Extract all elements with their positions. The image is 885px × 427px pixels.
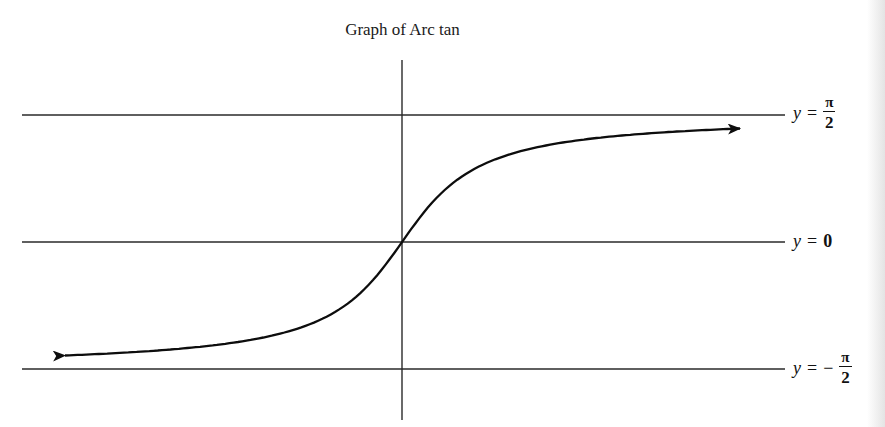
fraction-pi-over-2: π 2 (823, 95, 835, 131)
label-var: y (793, 231, 801, 252)
arctan-plot (0, 0, 885, 427)
label-equals: = (807, 231, 817, 252)
label-y-zero: y = 0 (793, 231, 832, 252)
label-y-neg-pi-over-2: y = − π 2 (793, 350, 852, 386)
fraction-numerator: π (839, 350, 851, 367)
label-var: y (793, 103, 801, 124)
label-y-pi-over-2: y = π 2 (793, 95, 835, 131)
fraction-pi-over-2: π 2 (839, 350, 851, 386)
label-value: 0 (823, 231, 832, 252)
fraction-numerator: π (823, 95, 835, 112)
label-var: y (793, 358, 801, 379)
label-equals: = (807, 358, 817, 379)
label-minus-sign: − (823, 358, 833, 379)
label-equals: = (807, 103, 817, 124)
fraction-denominator: 2 (825, 112, 834, 131)
fraction-denominator: 2 (841, 367, 850, 386)
